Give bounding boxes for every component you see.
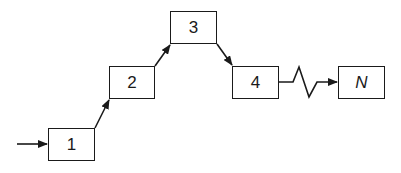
node-n: N bbox=[338, 66, 385, 99]
node-4-label: 4 bbox=[251, 73, 260, 93]
node-n-label: N bbox=[355, 73, 367, 93]
node-3: 3 bbox=[170, 11, 217, 44]
arrow-3-to-4 bbox=[217, 44, 232, 65]
arrow-2-to-3 bbox=[155, 45, 170, 66]
node-4: 4 bbox=[232, 66, 279, 99]
node-2: 2 bbox=[109, 66, 155, 99]
node-2-label: 2 bbox=[127, 73, 136, 93]
zigzag-break-arrow-4-to-N bbox=[279, 67, 337, 97]
node-3-label: 3 bbox=[189, 18, 198, 38]
node-1: 1 bbox=[48, 128, 95, 161]
arrow-1-to-2 bbox=[95, 100, 109, 128]
node-1-label: 1 bbox=[67, 135, 76, 155]
